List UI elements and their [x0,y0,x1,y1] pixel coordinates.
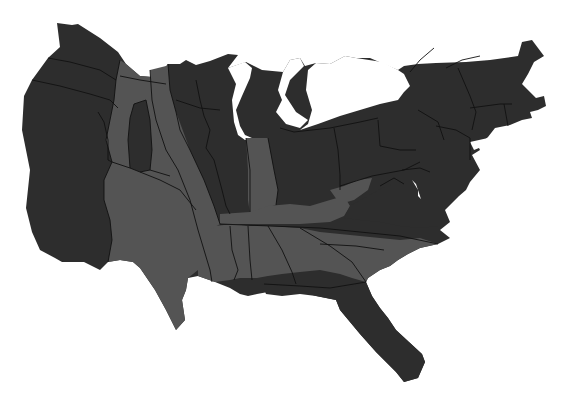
region-florida [262,282,425,382]
us-cartogram-map [0,0,577,413]
map-layer [22,23,546,382]
